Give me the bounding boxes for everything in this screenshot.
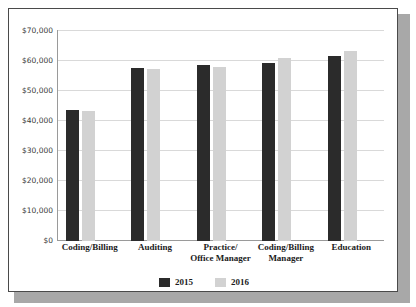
bar-group xyxy=(319,30,384,241)
legend-label: 2016 xyxy=(231,277,249,287)
y-axis-tick-label: $50,000 xyxy=(9,86,53,95)
y-axis-tick-label: $30,000 xyxy=(9,146,53,155)
category-label-line: Education xyxy=(305,242,398,253)
bar-2015[interactable] xyxy=(66,110,79,241)
bar-group xyxy=(253,30,318,241)
y-axis-tick-label: $60,000 xyxy=(9,56,53,65)
legend-swatch-icon xyxy=(215,278,226,287)
category-label-line: Manager xyxy=(239,253,332,264)
bar-group xyxy=(57,30,122,241)
legend-item[interactable]: 2015 xyxy=(159,277,193,287)
bar-2015[interactable] xyxy=(131,68,144,241)
bar-group xyxy=(188,30,253,241)
x-axis-category-labels: Coding/BillingAuditingPractice/Office Ma… xyxy=(57,242,384,274)
bar-2016[interactable] xyxy=(213,67,226,241)
bar-2015[interactable] xyxy=(328,56,341,241)
category-label: Education xyxy=(305,242,398,253)
bar-2016[interactable] xyxy=(82,111,95,241)
legend-item[interactable]: 2016 xyxy=(215,277,249,287)
bar-groups xyxy=(57,30,384,241)
y-axis-tick-label: $40,000 xyxy=(9,116,53,125)
y-axis-tick-label: $10,000 xyxy=(9,206,53,215)
bar-group xyxy=(122,30,187,241)
legend-label: 2015 xyxy=(175,277,193,287)
bar-2016[interactable] xyxy=(344,51,357,241)
bar-2015[interactable] xyxy=(197,65,210,241)
y-axis-tick-labels: $70,000$60,000$50,000$40,000$30,000$20,0… xyxy=(9,30,53,240)
bar-2016[interactable] xyxy=(147,69,160,241)
bar-2016[interactable] xyxy=(278,58,291,241)
legend-swatch-icon xyxy=(159,278,170,287)
chart-frame: $70,000$60,000$50,000$40,000$30,000$20,0… xyxy=(8,8,398,292)
chart-legend: 20152016 xyxy=(9,277,399,287)
y-axis-tick-label: $20,000 xyxy=(9,176,53,185)
bar-2015[interactable] xyxy=(262,63,275,241)
chart-page: $70,000$60,000$50,000$40,000$30,000$20,0… xyxy=(0,0,416,307)
y-axis-tick-label: $70,000 xyxy=(9,26,53,35)
